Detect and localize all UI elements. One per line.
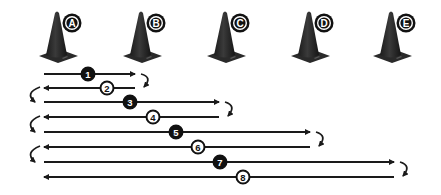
step-number: 6 bbox=[195, 142, 200, 153]
run-1: 1 bbox=[44, 68, 148, 88]
runs-group: 12345678 bbox=[31, 68, 407, 184]
drill-canvas: ABCDE 12345678 bbox=[0, 0, 441, 195]
cone-label: D bbox=[320, 18, 327, 29]
run-8: 8 bbox=[44, 171, 394, 184]
run-4: 4 bbox=[31, 111, 219, 133]
turnaround-arrow-icon bbox=[31, 87, 40, 102]
run-2: 2 bbox=[31, 82, 135, 103]
step-number: 1 bbox=[85, 69, 91, 80]
step-number: 5 bbox=[173, 127, 179, 138]
turnaround-arrow-icon bbox=[316, 132, 323, 146]
turnaround-arrow-icon bbox=[400, 162, 407, 176]
cone-b: B bbox=[123, 12, 166, 64]
step-number: 8 bbox=[240, 172, 245, 183]
run-3: 3 bbox=[44, 96, 232, 117]
cone-label: C bbox=[236, 18, 243, 29]
cone-label: E bbox=[403, 18, 410, 29]
cone-label: B bbox=[152, 18, 159, 29]
step-number: 7 bbox=[217, 157, 222, 168]
run-5: 5 bbox=[44, 126, 323, 147]
run-7: 7 bbox=[44, 156, 407, 177]
run-6: 6 bbox=[31, 141, 310, 163]
cone-label: A bbox=[68, 18, 75, 29]
turnaround-arrow-icon bbox=[31, 146, 40, 162]
cone-a: A bbox=[39, 12, 82, 64]
turnaround-arrow-icon bbox=[141, 74, 148, 87]
cone-c: C bbox=[207, 12, 250, 64]
turnaround-arrow-icon bbox=[31, 116, 40, 132]
cone-e: E bbox=[373, 12, 416, 64]
turnaround-arrow-icon bbox=[225, 102, 232, 116]
step-number: 2 bbox=[104, 83, 109, 94]
step-number: 4 bbox=[150, 112, 156, 123]
shuttle-drill-diagram: ABCDE 12345678 bbox=[0, 0, 441, 195]
cone-d: D bbox=[291, 12, 334, 64]
step-number: 3 bbox=[127, 97, 132, 108]
cones-group: ABCDE bbox=[39, 12, 416, 64]
